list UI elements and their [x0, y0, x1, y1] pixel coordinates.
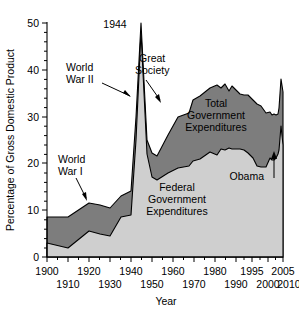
y-tick-label-0: 0: [33, 251, 39, 263]
x-tick-label-2005: 2005: [271, 265, 295, 277]
annotation-ww1-line1: World: [58, 153, 85, 165]
annotation-great-society-line1: Great: [139, 52, 165, 64]
annotation-1944-label: 1944: [103, 18, 127, 30]
x-tick-label-1940: 1940: [119, 265, 143, 277]
y-tick-label-30: 30: [27, 111, 39, 123]
annotation-ww2-line1: World: [66, 61, 93, 73]
y-tick-label-40: 40: [27, 64, 39, 76]
x-tick-label-1980: 1980: [203, 265, 227, 277]
x-tick-label-1950: 1950: [140, 278, 164, 290]
series-label-total-line3: Expenditures: [185, 121, 246, 133]
series-label-federal-line2: Government: [148, 193, 206, 205]
gdp-expenditures-chart: 50 40 30 20 10 0 Percentage of Gross Dom…: [0, 0, 299, 311]
series-label-federal-line3: Expenditures: [146, 205, 207, 217]
annotation-ww1-line2: War I: [58, 165, 83, 177]
y-tick-label-50: 50: [27, 17, 39, 29]
annotation-great-society-line2: Society: [135, 64, 170, 76]
y-tick-label-20: 20: [27, 157, 39, 169]
y-tick-label-10: 10: [27, 204, 39, 216]
annotation-ww2-line2: War II: [66, 73, 94, 85]
y-axis-ticks: [42, 23, 47, 257]
x-tick-label-1995: 1995: [240, 265, 264, 277]
x-tick-label-1930: 1930: [98, 278, 122, 290]
x-tick-label-1900: 1900: [35, 265, 59, 277]
x-tick-label-1970: 1970: [182, 278, 206, 290]
series-label-total-line1: Total: [205, 97, 227, 109]
x-tick-label-1910: 1910: [56, 278, 80, 290]
series-label-federal-line1: Federal: [159, 181, 195, 193]
chart-container: 50 40 30 20 10 0 Percentage of Gross Dom…: [0, 0, 299, 311]
x-tick-label-1960: 1960: [161, 265, 185, 277]
x-axis-title: Year: [155, 295, 177, 307]
series-label-total-line2: Government: [187, 109, 245, 121]
annotation-obama-label: Obama: [230, 170, 265, 182]
x-axis-ticks: [47, 257, 283, 262]
x-tick-label-1990: 1990: [224, 278, 248, 290]
y-axis-title: Percentage of Gross Domestic Product: [4, 49, 16, 231]
x-tick-label-1920: 1920: [77, 265, 101, 277]
x-tick-label-2010: 2010*: [277, 278, 299, 290]
